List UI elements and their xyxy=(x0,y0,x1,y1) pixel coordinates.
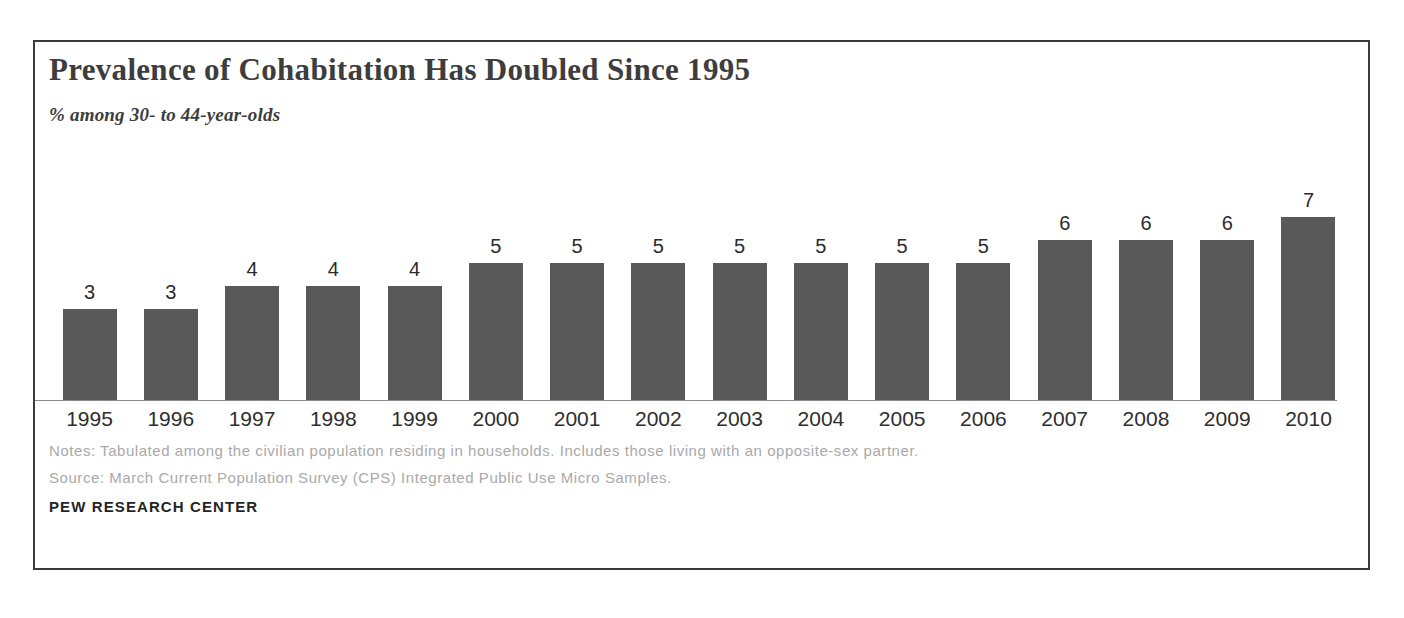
brand-attribution: PEW RESEARCH CENTER xyxy=(49,498,258,515)
bar-group: 4 xyxy=(293,182,374,400)
x-tick-label: 2009 xyxy=(1187,407,1268,431)
bar xyxy=(388,286,442,400)
x-tick-label: 2005 xyxy=(862,407,943,431)
bar xyxy=(225,286,279,400)
bar-value-label: 6 xyxy=(1222,213,1233,233)
bar xyxy=(794,263,848,400)
bar xyxy=(1038,240,1092,400)
bar-group: 6 xyxy=(1024,182,1105,400)
plot-area: 3344455555556667 xyxy=(49,182,1349,400)
x-tick-label: 1998 xyxy=(293,407,374,431)
bar-value-label: 3 xyxy=(84,282,95,302)
bar-value-label: 5 xyxy=(572,236,583,256)
bar-value-label: 5 xyxy=(490,236,501,256)
x-tick-label: 2004 xyxy=(780,407,861,431)
bar-group: 6 xyxy=(1187,182,1268,400)
x-tick-label: 2007 xyxy=(1024,407,1105,431)
bar-group: 4 xyxy=(212,182,293,400)
bar xyxy=(1281,217,1335,400)
bar-group: 4 xyxy=(374,182,455,400)
bar xyxy=(956,263,1010,400)
chart-notes: Notes: Tabulated among the civilian popu… xyxy=(49,442,919,459)
bar-series: 3344455555556667 xyxy=(49,182,1349,400)
bar-group: 7 xyxy=(1268,182,1349,400)
bar xyxy=(144,309,198,400)
x-tick-label: 1999 xyxy=(374,407,455,431)
bar-value-label: 4 xyxy=(246,259,257,279)
x-tick-label: 2002 xyxy=(618,407,699,431)
bar-group: 5 xyxy=(862,182,943,400)
x-tick-label: 1997 xyxy=(212,407,293,431)
x-tick-label: 1996 xyxy=(130,407,211,431)
bar-value-label: 5 xyxy=(653,236,664,256)
bar xyxy=(713,263,767,400)
x-tick-label: 2000 xyxy=(455,407,536,431)
bar xyxy=(1119,240,1173,400)
bar xyxy=(631,263,685,400)
bar-group: 3 xyxy=(130,182,211,400)
bar xyxy=(1200,240,1254,400)
bar xyxy=(550,263,604,400)
bar-value-label: 5 xyxy=(978,236,989,256)
x-tick-label: 2001 xyxy=(537,407,618,431)
bar-group: 6 xyxy=(1105,182,1186,400)
x-axis-tick-labels: 1995199619971998199920002001200220032004… xyxy=(49,407,1349,431)
bar-value-label: 6 xyxy=(1059,213,1070,233)
bar-value-label: 4 xyxy=(328,259,339,279)
bar-group: 5 xyxy=(537,182,618,400)
bar xyxy=(875,263,929,400)
chart-subtitle: % among 30- to 44-year-olds xyxy=(49,104,280,126)
bar-value-label: 6 xyxy=(1140,213,1151,233)
bar-group: 5 xyxy=(455,182,536,400)
bar-value-label: 4 xyxy=(409,259,420,279)
bar-value-label: 5 xyxy=(734,236,745,256)
bar-group: 5 xyxy=(618,182,699,400)
bar-value-label: 5 xyxy=(815,236,826,256)
bar-value-label: 5 xyxy=(897,236,908,256)
bar-group: 3 xyxy=(49,182,130,400)
bar-group: 5 xyxy=(699,182,780,400)
x-tick-label: 2006 xyxy=(943,407,1024,431)
bar-value-label: 3 xyxy=(165,282,176,302)
bar xyxy=(63,309,117,400)
x-tick-label: 2010 xyxy=(1268,407,1349,431)
chart-figure: Prevalence of Cohabitation Has Doubled S… xyxy=(33,40,1370,570)
bar-group: 5 xyxy=(780,182,861,400)
chart-title: Prevalence of Cohabitation Has Doubled S… xyxy=(49,52,750,88)
x-tick-label: 2003 xyxy=(699,407,780,431)
x-tick-label: 2008 xyxy=(1105,407,1186,431)
bar xyxy=(469,263,523,400)
x-axis-line xyxy=(35,400,1337,401)
bar xyxy=(306,286,360,400)
bar-value-label: 7 xyxy=(1303,190,1314,210)
bar-group: 5 xyxy=(943,182,1024,400)
chart-source: Source: March Current Population Survey … xyxy=(49,469,672,486)
x-tick-label: 1995 xyxy=(49,407,130,431)
